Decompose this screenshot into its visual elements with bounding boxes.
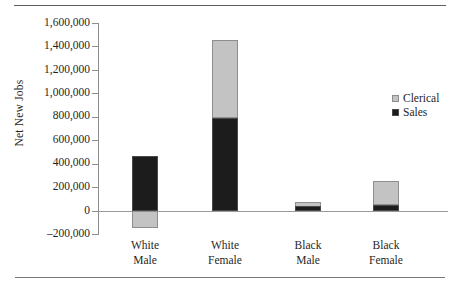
legend-label-sales: Sales xyxy=(403,105,427,119)
y-tick-label-0: 0 xyxy=(12,205,90,217)
y-tick-label-800000: 800,000 xyxy=(12,110,90,122)
x-axis-label-black-female: Black Female xyxy=(331,238,441,268)
bar-segment-sales[interactable] xyxy=(373,205,399,211)
y-tick-mark-1600000 xyxy=(92,23,98,24)
y-tick-label-1400000: 1,400,000 xyxy=(12,40,90,52)
y-tick-mark-800000 xyxy=(92,117,98,118)
legend-swatch-icon-clerical xyxy=(392,95,399,102)
y-tick-label-1600000: 1,600,000 xyxy=(12,17,90,29)
y-tick-mark-400000 xyxy=(92,164,98,165)
bar-segment-clerical[interactable] xyxy=(373,181,399,205)
x-axis-label-line1: Black xyxy=(331,238,441,253)
y-tick-mark-1200000 xyxy=(92,70,98,71)
bar-segment-sales[interactable] xyxy=(295,206,321,211)
y-tick-mark-1000000 xyxy=(92,93,98,94)
legend-item-sales[interactable]: Sales xyxy=(392,105,439,119)
bar-segment-clerical[interactable] xyxy=(212,40,238,118)
chart-legend: Clerical Sales xyxy=(392,91,439,119)
y-tick-mark-1400000 xyxy=(92,46,98,47)
y-axis-tick-labels: 1,600,000 1,400,000 1,200,000 1,000,000 … xyxy=(8,0,90,291)
bar-segment-sales[interactable] xyxy=(132,156,158,211)
y-tick-label-400000: 400,000 xyxy=(12,157,90,169)
legend-item-clerical[interactable]: Clerical xyxy=(392,91,439,105)
y-tick-mark-neg200000 xyxy=(92,234,98,235)
y-axis-spine xyxy=(98,23,99,235)
bar-segment-clerical[interactable] xyxy=(132,211,158,228)
y-tick-label-1200000: 1,200,000 xyxy=(12,64,90,76)
y-tick-label-600000: 600,000 xyxy=(12,134,90,146)
y-tick-label-200000: 200,000 xyxy=(12,181,90,193)
bar-segment-sales[interactable] xyxy=(212,118,238,211)
legend-label-clerical: Clerical xyxy=(403,91,439,105)
legend-swatch-icon-sales xyxy=(392,109,399,116)
y-tick-mark-200000 xyxy=(92,187,98,188)
x-axis-label-line2: Female xyxy=(331,253,441,268)
y-tick-label-neg200000: –200,000 xyxy=(12,228,90,240)
y-tick-mark-600000 xyxy=(92,140,98,141)
y-tick-label-1000000: 1,000,000 xyxy=(12,87,90,99)
chart-figure: Net New Jobs 1,600,000 1,400,000 1,200,0… xyxy=(0,0,460,291)
